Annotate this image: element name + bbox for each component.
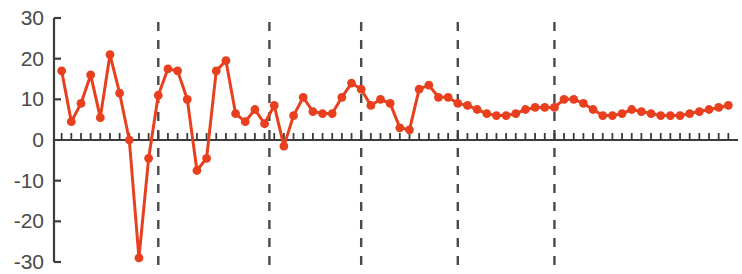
data-point-marker bbox=[444, 93, 453, 102]
data-point-marker bbox=[193, 166, 202, 175]
data-point-marker bbox=[386, 99, 395, 108]
data-point-marker bbox=[627, 105, 636, 114]
data-point-marker bbox=[212, 66, 221, 75]
data-point-marker bbox=[598, 111, 607, 120]
data-point-marker bbox=[164, 64, 173, 73]
data-point-marker bbox=[366, 101, 375, 110]
data-point-marker bbox=[492, 111, 501, 120]
data-point-marker bbox=[569, 95, 578, 104]
data-point-marker bbox=[482, 109, 491, 118]
data-point-marker bbox=[540, 103, 549, 112]
data-point-marker bbox=[395, 123, 404, 132]
data-point-marker bbox=[618, 109, 627, 118]
data-point-marker bbox=[434, 93, 443, 102]
data-point-marker bbox=[260, 119, 269, 128]
data-point-marker bbox=[115, 89, 124, 98]
data-point-marker bbox=[77, 99, 86, 108]
data-point-marker bbox=[714, 103, 723, 112]
data-point-marker bbox=[308, 107, 317, 116]
data-point-marker bbox=[608, 111, 617, 120]
y-axis-tick-label: -30 bbox=[14, 250, 44, 273]
data-point-marker bbox=[241, 117, 250, 126]
y-axis-tick-label: -10 bbox=[14, 169, 44, 192]
data-point-marker bbox=[695, 107, 704, 116]
y-axis-tick-labels: 3020100-10-20-30 bbox=[14, 6, 44, 273]
chart-container: 3020100-10-20-30 bbox=[0, 0, 742, 274]
data-point-marker bbox=[579, 99, 588, 108]
data-point-marker bbox=[511, 109, 520, 118]
data-point-marker bbox=[135, 254, 144, 263]
data-point-marker bbox=[289, 111, 298, 120]
data-point-marker bbox=[222, 56, 231, 65]
data-point-marker bbox=[270, 101, 279, 110]
data-point-marker bbox=[473, 105, 482, 114]
data-point-marker bbox=[676, 111, 685, 120]
data-point-marker bbox=[502, 111, 511, 120]
data-point-marker bbox=[521, 105, 530, 114]
data-point-marker bbox=[299, 93, 308, 102]
data-point-marker bbox=[144, 154, 153, 163]
data-point-marker bbox=[202, 154, 211, 163]
data-point-marker bbox=[67, 117, 76, 126]
data-point-marker bbox=[96, 113, 105, 122]
data-point-marker bbox=[685, 109, 694, 118]
data-point-marker bbox=[231, 109, 240, 118]
data-point-marker bbox=[357, 85, 366, 94]
data-point-marker bbox=[724, 101, 733, 110]
data-point-marker bbox=[337, 93, 346, 102]
data-point-marker bbox=[424, 81, 433, 90]
data-line-series bbox=[62, 55, 729, 258]
data-point-marker bbox=[637, 107, 646, 116]
data-point-marker bbox=[647, 109, 656, 118]
data-point-marker bbox=[550, 103, 559, 112]
data-point-marker bbox=[376, 95, 385, 104]
data-point-marker bbox=[318, 109, 327, 118]
data-point-marker bbox=[347, 79, 356, 88]
data-point-marker bbox=[589, 105, 598, 114]
data-point-marker bbox=[453, 99, 462, 108]
data-point-marker bbox=[705, 105, 714, 114]
data-point-marker bbox=[279, 142, 288, 151]
y-axis-tick-label: 0 bbox=[32, 128, 44, 151]
y-axis-tick-label: 10 bbox=[21, 87, 44, 110]
data-point-marker bbox=[531, 103, 540, 112]
vertical-separator-lines bbox=[158, 22, 554, 268]
data-point-marker bbox=[125, 136, 134, 145]
data-point-marker bbox=[405, 125, 414, 134]
data-point-marker bbox=[86, 71, 95, 80]
data-point-marker bbox=[415, 85, 424, 94]
data-point-marker bbox=[183, 95, 192, 104]
line-chart: 3020100-10-20-30 bbox=[0, 0, 742, 274]
data-point-marker bbox=[154, 91, 163, 100]
data-point-marker bbox=[173, 66, 182, 75]
data-point-marker bbox=[328, 109, 337, 118]
y-axis-tick-label: -20 bbox=[14, 209, 44, 232]
data-point-marker bbox=[106, 50, 115, 59]
data-point-marker bbox=[463, 101, 472, 110]
data-point-marker bbox=[666, 111, 675, 120]
y-axis-tick-label: 20 bbox=[21, 47, 44, 70]
data-point-marker bbox=[57, 66, 66, 75]
y-axis-tick-label: 30 bbox=[21, 6, 44, 29]
data-point-marker bbox=[560, 95, 569, 104]
data-point-marker bbox=[656, 111, 665, 120]
data-point-marker bbox=[251, 105, 260, 114]
